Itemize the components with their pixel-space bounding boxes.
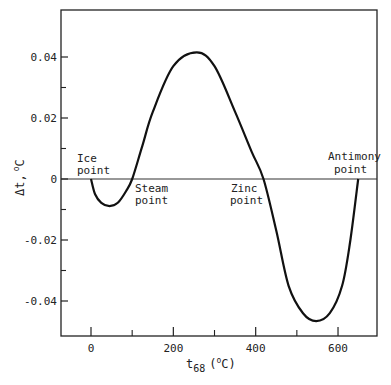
x-tick-label: 200 — [163, 342, 183, 355]
y-tick-label: 0 — [50, 173, 57, 186]
delta-t-curve — [91, 52, 358, 321]
y-tick-label: 0.04 — [31, 51, 58, 64]
antimony-point-label-line1: Antimony — [328, 150, 381, 163]
y-tick-label: -0.02 — [24, 234, 57, 247]
antimony-point-label-line2: point — [334, 163, 367, 176]
y-tick-label: 0.02 — [31, 112, 58, 125]
y-tick-label: -0.04 — [24, 295, 57, 308]
ice-point-label-line2: point — [77, 164, 110, 177]
x-tick-label: 400 — [246, 342, 266, 355]
chart-root: 0200400600 0.040.020-0.02-0.04 Ice point… — [0, 0, 391, 385]
zinc-point-label-line2: point — [230, 194, 263, 207]
steam-point-label-line2: point — [135, 194, 168, 207]
x-tick-label: 600 — [328, 342, 348, 355]
x-tick-label: 0 — [88, 342, 95, 355]
x-axis-title: t68(oC) — [186, 356, 236, 374]
x-axis-ticks: 0200400600 — [88, 327, 348, 355]
y-axis-title: Δt,oC — [12, 159, 27, 196]
